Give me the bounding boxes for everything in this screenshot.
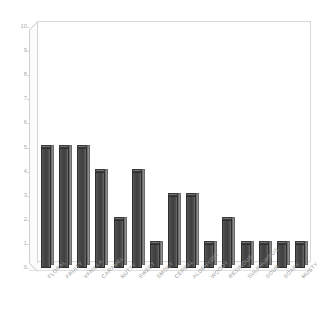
x-axis-tick-label: SWEET xyxy=(138,261,157,280)
x-axis-labels: FLORALFRUITYVANILLACARAMELNUTTYSWEETSMOK… xyxy=(0,0,323,329)
x-axis-tick-label: SOUR xyxy=(265,264,281,280)
x-axis-tick-label: SMOKY xyxy=(156,261,175,280)
bar-chart: 109876543210 FLORALFRUITYVANILLACARAMELN… xyxy=(0,0,323,329)
x-axis-tick-label: NUTTY xyxy=(120,262,138,280)
x-axis-tick-label: FLORAL xyxy=(47,260,67,280)
x-axis-tick-label: SOAPY xyxy=(283,262,301,280)
x-axis-tick-label: FRUITY xyxy=(65,261,84,280)
x-axis-tick-label: CEREAL xyxy=(174,259,195,280)
x-axis-tick-label: WOODY xyxy=(210,260,230,280)
x-axis-tick-label: MUSTY xyxy=(301,261,319,279)
